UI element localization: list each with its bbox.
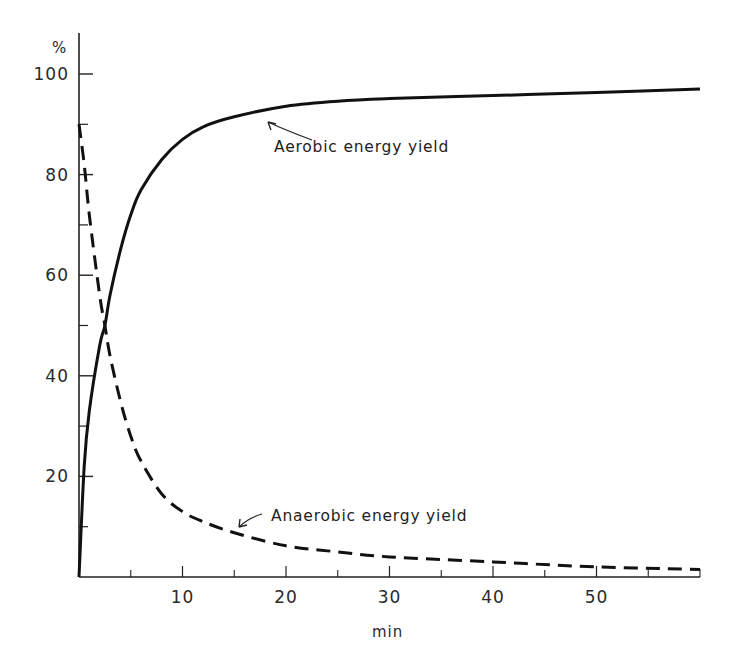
anaerobic-arrow	[239, 514, 262, 527]
x-tick-label: 50	[585, 587, 609, 607]
axes	[79, 33, 700, 577]
x-tick-label: 10	[171, 587, 195, 607]
y-tick-label: 60	[45, 265, 69, 285]
y-tick-label: 20	[45, 466, 69, 486]
y-tick-label: 40	[45, 366, 69, 386]
anaerobic-annotation: Anaerobic energy yield	[271, 507, 467, 525]
y-tick-label: 100	[34, 64, 69, 84]
x-tick-label: 40	[481, 587, 505, 607]
y-axis-unit: %	[52, 39, 67, 57]
energy-yield-chart: 204060801001020304050 % min Aerobic ener…	[0, 0, 733, 669]
anaerobic-curve	[79, 124, 700, 569]
x-tick-label: 20	[274, 587, 298, 607]
x-tick-label: 30	[378, 587, 402, 607]
x-axis-title: min	[372, 623, 403, 641]
aerobic-annotation: Aerobic energy yield	[274, 138, 449, 156]
y-tick-label: 80	[45, 165, 69, 185]
